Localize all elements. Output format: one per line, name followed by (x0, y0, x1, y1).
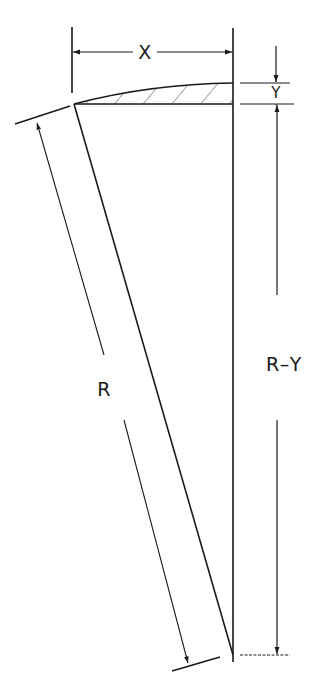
label-r: R (97, 380, 111, 399)
label-r-minus-y: R–Y (266, 355, 302, 374)
segment-hatch (74, 83, 233, 104)
r-bottom-tick (172, 657, 220, 671)
label-x: X (138, 43, 152, 62)
label-y: Y (271, 86, 281, 101)
arc-extension (15, 106, 70, 124)
r-arrow-top (37, 123, 104, 355)
sagitta-diagram (0, 0, 328, 697)
r-arrow-bottom (124, 420, 188, 663)
